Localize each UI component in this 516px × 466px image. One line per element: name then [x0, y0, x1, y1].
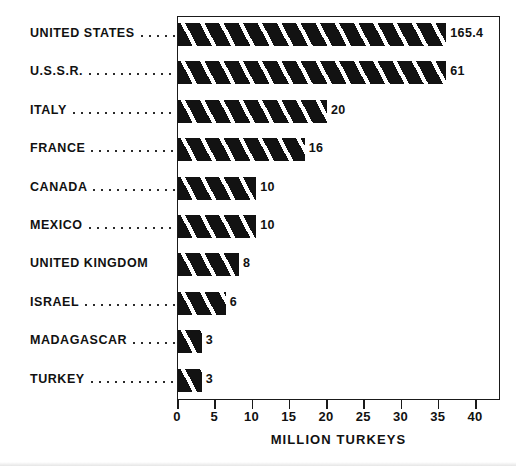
bar-value-label: 16 — [309, 137, 324, 160]
axis-tick-label: 40 — [467, 409, 482, 424]
axis-tick-label: 35 — [430, 409, 445, 424]
bar-value-label: 10 — [260, 176, 275, 199]
bar — [178, 369, 202, 392]
bar-value-label: 61 — [450, 60, 465, 83]
leader-dots — [91, 141, 175, 155]
leader-dots — [89, 64, 175, 78]
leader-dots — [89, 218, 175, 232]
bar — [178, 61, 446, 84]
axis-tick-label: 10 — [244, 409, 259, 424]
x-axis-title: MILLION TURKEYS — [177, 432, 500, 447]
category-label: CANADA — [30, 180, 87, 194]
category-label: TURKEY — [30, 372, 85, 386]
category-label-row: UNITED KINGDOM — [0, 251, 177, 275]
category-label-row: CANADA — [0, 175, 177, 199]
category-label: MEXICO — [30, 218, 83, 232]
bar-value-label: 6 — [230, 291, 237, 314]
bar-value-label: 165.4 — [450, 22, 483, 45]
category-label-row: MEXICO — [0, 213, 177, 237]
axis-tick — [438, 400, 440, 409]
category-label: MADAGASCAR — [30, 333, 127, 347]
category-label: U.S.S.R. — [30, 64, 83, 78]
axis-tick-label: 30 — [393, 409, 408, 424]
bar — [178, 100, 327, 123]
bar — [178, 177, 256, 200]
bar-value-label: 20 — [331, 99, 346, 122]
category-label-row: MADAGASCAR — [0, 328, 177, 352]
axis-tick — [401, 400, 403, 409]
axis-tick — [475, 400, 477, 409]
bar — [178, 253, 239, 276]
axis-tick-label: 25 — [356, 409, 371, 424]
category-label-row: ITALY — [0, 98, 177, 122]
bar — [178, 330, 202, 353]
bar — [178, 23, 446, 46]
category-label: UNITED KINGDOM — [30, 256, 148, 270]
axis-tick-label: 15 — [281, 409, 296, 424]
category-label: UNITED STATES — [30, 26, 135, 40]
axis-tick — [326, 400, 328, 409]
bar — [178, 215, 256, 238]
category-label-row: U.S.S.R. — [0, 59, 177, 83]
axis-tick — [289, 400, 291, 409]
category-label-row: TURKEY — [0, 367, 177, 391]
axis-tick — [363, 400, 365, 409]
category-label-row: FRANCE — [0, 136, 177, 160]
bar — [178, 292, 226, 315]
category-label-row: UNITED STATES — [0, 21, 177, 45]
bar-value-label: 3 — [206, 368, 213, 391]
leader-dots — [133, 333, 175, 347]
axis-tick — [214, 400, 216, 409]
category-label: ITALY — [30, 103, 67, 117]
leader-dots — [85, 295, 175, 309]
axis-tick-label: 20 — [318, 409, 333, 424]
bar-chart: UNITED STATESU.S.S.R.ITALYFRANCECANADAME… — [0, 0, 516, 466]
axis-tick-label: 5 — [210, 409, 218, 424]
leader-dots — [141, 26, 175, 40]
axis-tick-label: 0 — [173, 409, 181, 424]
leader-dots — [91, 372, 175, 386]
category-label: FRANCE — [30, 141, 85, 155]
leader-dots — [93, 180, 175, 194]
bar-value-label: 10 — [260, 214, 275, 237]
scan-edge-artifact — [0, 462, 516, 466]
x-axis-ticks — [177, 400, 500, 409]
bar — [178, 138, 305, 161]
leader-dots — [154, 256, 175, 270]
axis-tick — [252, 400, 254, 409]
bar-value-label: 8 — [243, 252, 250, 275]
axis-tick — [177, 400, 179, 409]
leader-dots — [73, 103, 175, 117]
bar-value-label: 3 — [206, 329, 213, 352]
category-label-row: ISRAEL — [0, 290, 177, 314]
category-label: ISRAEL — [30, 295, 79, 309]
